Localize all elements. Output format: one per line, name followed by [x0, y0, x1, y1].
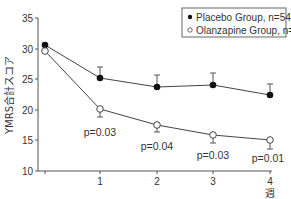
y-axis-label: YMRS合計スコア: [3, 56, 15, 135]
filled-circle-icon: [188, 15, 192, 19]
x-tick-label: 4: [267, 176, 273, 187]
chart: 35 30 25 20 15 10 1 2 3 4 週 YMRS合計スコア: [0, 0, 291, 199]
p-value-annotation: p=0.04: [141, 140, 174, 152]
y-tick-label: 20: [22, 105, 34, 116]
x-tick-label: 3: [210, 176, 216, 187]
y-tick-label: 10: [22, 166, 34, 177]
y-tick-label: 15: [22, 135, 34, 146]
legend-placebo: Placebo Group, n=54: [196, 12, 291, 23]
x-tick-label: 1: [97, 176, 103, 187]
olanzapine-error-bars: [97, 109, 273, 149]
y-tick-label: 25: [22, 74, 34, 85]
y-tick-label: 35: [22, 13, 34, 24]
x-tick-label: 2: [154, 176, 160, 187]
p-value-annotation: p=0.01: [252, 152, 285, 164]
y-tick-label: 30: [22, 44, 34, 55]
x-ticks: 1 2 3 4: [45, 171, 273, 187]
y-ticks: 35 30 25 20 15 10: [22, 13, 38, 177]
olanzapine-markers: [42, 48, 274, 144]
p-value-annotation: p=0.03: [84, 126, 117, 138]
legend-olanzapine: Olanzapine Group, n=56: [196, 25, 291, 36]
open-circle-icon: [188, 28, 192, 32]
x-axis-label: 週: [265, 188, 275, 199]
legend: Placebo Group, n=54 Olanzapine Group, n=…: [182, 8, 291, 37]
p-value-annotation: p=0.03: [197, 149, 230, 161]
